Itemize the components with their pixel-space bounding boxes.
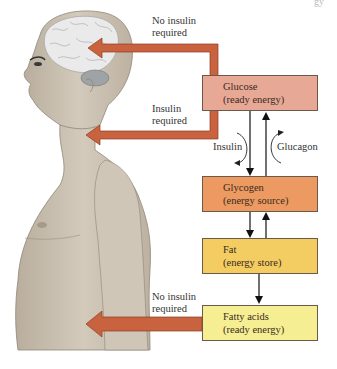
box-fatty-acids: Fatty acids (ready energy)	[202, 305, 318, 341]
box-title: Glycogen	[223, 182, 317, 195]
arrow-glucose-to-brain	[88, 38, 218, 76]
label-glucagon: Glucagon	[277, 141, 318, 153]
label-line: Insulin	[152, 103, 187, 115]
box-fat: Fat (energy store)	[202, 238, 318, 274]
box-title: Glucose	[223, 81, 317, 94]
box-glucose: Glucose (ready energy)	[202, 75, 318, 111]
box-glycogen: Glycogen (energy source)	[202, 176, 318, 212]
label-line: required	[152, 303, 196, 315]
box-subtitle: (energy store)	[223, 257, 317, 270]
label-brain-no-insulin: No insulin required	[152, 15, 196, 39]
label-body-insulin-required: Insulin required	[152, 103, 187, 127]
label-line: No insulin	[152, 291, 196, 303]
label-muscle-no-insulin: No insulin required	[152, 291, 196, 315]
box-subtitle: (ready energy)	[223, 324, 317, 337]
label-insulin: Insulin	[213, 141, 242, 153]
box-subtitle: (energy source)	[223, 195, 317, 208]
box-title: Fat	[223, 244, 317, 257]
box-subtitle: (ready energy)	[223, 94, 317, 107]
cropped-heading-fragment: gy	[314, 0, 324, 7]
label-line: No insulin	[152, 15, 196, 27]
box-title: Fatty acids	[223, 311, 317, 324]
label-line: required	[152, 115, 187, 127]
label-line: required	[152, 27, 196, 39]
